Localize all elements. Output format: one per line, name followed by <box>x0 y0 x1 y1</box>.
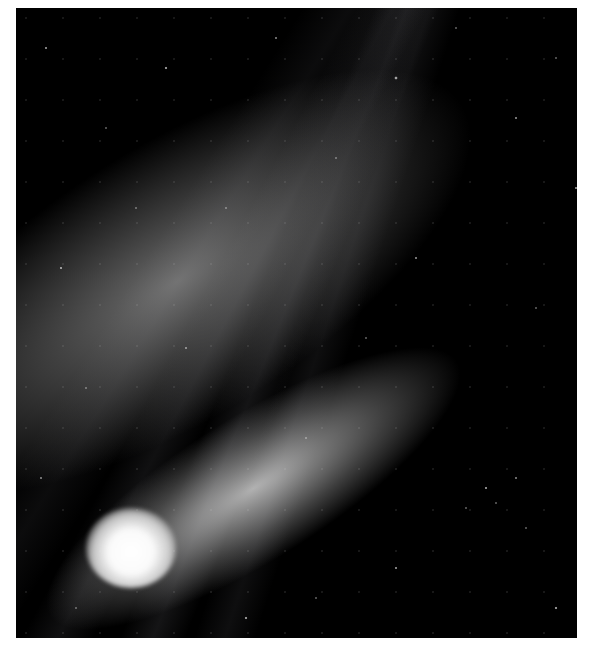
comet-photograph <box>16 8 577 638</box>
bright-stars <box>16 8 577 638</box>
